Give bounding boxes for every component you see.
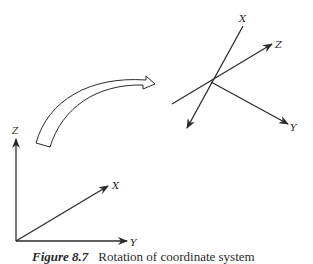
original-z-label: Z [11,126,19,136]
rotated-axes: X Z Y [172,13,298,133]
original-y-label: Y [130,237,138,248]
rotated-z-label: Z [274,39,283,50]
rotated-y-axis [211,82,288,124]
rotated-x-label: X [238,13,247,24]
original-x-axis [16,186,108,241]
rotated-y-label: Y [290,122,298,133]
figure-number: Figure 8.7 [32,249,88,264]
rotated-z-axis [172,44,272,104]
figure-caption-text: Rotation of coordinate system [98,249,254,264]
curved-arrow-icon [36,76,155,147]
figure-caption: Figure 8.7Rotation of coordinate system [32,250,282,263]
original-x-label: X [111,180,120,191]
rotation-arrow [36,76,155,147]
original-axes: Z X Y [11,126,138,248]
rotated-x-axis [187,26,243,128]
